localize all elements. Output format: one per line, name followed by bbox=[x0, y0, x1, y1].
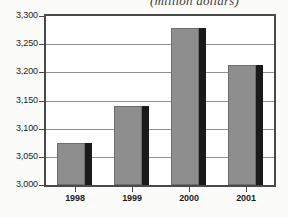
y-axis-tick-label: 3,250 bbox=[0, 38, 38, 48]
y-axis-tick-label: 3,050 bbox=[0, 151, 38, 161]
x-axis-tick bbox=[189, 187, 190, 192]
y-axis-tick bbox=[39, 185, 44, 186]
bar bbox=[171, 28, 206, 185]
y-axis-tick-label: 3,150 bbox=[0, 95, 38, 105]
x-axis-tick bbox=[246, 187, 247, 192]
y-axis-tick bbox=[39, 101, 44, 102]
y-axis-tick bbox=[39, 44, 44, 45]
bar-shadow bbox=[256, 65, 263, 185]
chart-title-clip: (million dollars) bbox=[150, 0, 280, 9]
x-axis-tick-label: 1998 bbox=[50, 193, 100, 203]
y-axis-tick bbox=[39, 129, 44, 130]
gridline bbox=[46, 44, 274, 45]
y-axis-tick bbox=[39, 157, 44, 158]
bar-body bbox=[57, 143, 85, 185]
bar-shadow bbox=[199, 28, 206, 185]
chart-title: (million dollars) bbox=[150, 0, 239, 9]
bar-body bbox=[114, 106, 142, 185]
x-axis-tick-label: 2000 bbox=[164, 193, 214, 203]
bar bbox=[57, 143, 92, 185]
plot-area bbox=[46, 16, 274, 185]
bar-chart-figure: (million dollars) 3,0003,0503,1003,1503,… bbox=[0, 0, 288, 217]
y-axis-tick-label: 3,000 bbox=[0, 179, 38, 189]
y-axis-tick-label: 3,100 bbox=[0, 123, 38, 133]
bar-shadow bbox=[85, 143, 92, 185]
bar-body bbox=[228, 65, 256, 185]
bar-body bbox=[171, 28, 199, 185]
y-axis-tick bbox=[39, 72, 44, 73]
y-axis-tick-label: 3,300 bbox=[0, 10, 38, 20]
y-axis-tick bbox=[39, 16, 44, 17]
y-axis-tick-label: 3,200 bbox=[0, 66, 38, 76]
bar bbox=[228, 65, 263, 185]
x-axis-tick bbox=[132, 187, 133, 192]
bar bbox=[114, 106, 149, 185]
x-axis-tick-label: 1999 bbox=[107, 193, 157, 203]
bar-shadow bbox=[142, 106, 149, 185]
x-axis-tick bbox=[75, 187, 76, 192]
x-axis-tick-label: 2001 bbox=[221, 193, 271, 203]
